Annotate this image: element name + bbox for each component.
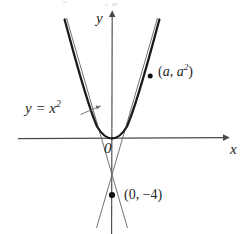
- paren-close: ): [188, 64, 193, 79]
- coord-separator: ,: [170, 64, 177, 79]
- coord-a-squared-base: a: [177, 64, 184, 79]
- x-axis-line: [18, 138, 224, 139]
- curve-equation-exponent: 2: [56, 98, 61, 109]
- origin-label: 0: [104, 141, 112, 156]
- tangent-point-label: (a, a2): [158, 65, 193, 79]
- point-marker-intersection: [109, 192, 115, 198]
- y-axis-line: [112, 16, 113, 234]
- coord-a: a: [163, 64, 170, 79]
- curve-equation-label: y = x2: [25, 101, 61, 116]
- intersection-point-label: (0, −4): [124, 188, 162, 202]
- point-marker-tangency: [148, 74, 153, 79]
- parabola-tangent-figure: y x 0 y = x2 (a, a2) (0, −4): [0, 0, 246, 234]
- y-axis-label: y: [96, 11, 103, 26]
- curve-equation-text: y = x: [25, 100, 56, 116]
- x-axis-label: x: [230, 142, 237, 157]
- graph-canvas: [0, 0, 246, 234]
- tangent-line-left: [67, 18, 128, 228]
